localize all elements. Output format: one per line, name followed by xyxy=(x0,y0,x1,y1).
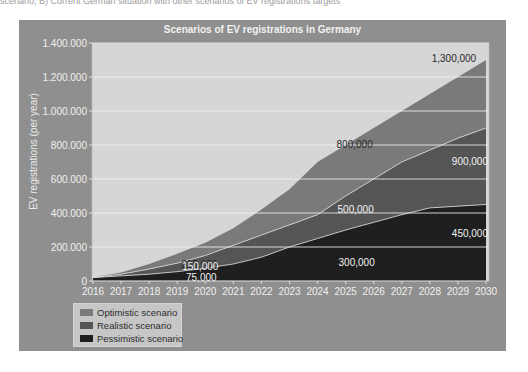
data-label: 75,000 xyxy=(186,272,217,283)
x-tick-label: 2016 xyxy=(82,286,105,297)
legend-item-pessimistic: Pessimistic scenario xyxy=(80,333,183,344)
x-tick-label: 2030 xyxy=(475,286,498,297)
legend-label: Realistic scenario xyxy=(97,320,171,331)
x-tick-label: 2020 xyxy=(194,286,217,297)
x-tick-label: 2021 xyxy=(222,286,245,297)
x-tick-label: 2027 xyxy=(391,286,414,297)
data-label: 450,000 xyxy=(452,228,489,239)
legend-item-realistic: Realistic scenario xyxy=(80,320,171,331)
y-tick-label: 800.000 xyxy=(51,140,88,151)
legend-label: Pessimistic scenario xyxy=(97,333,183,344)
legend-swatch-pessimistic xyxy=(80,335,93,342)
y-tick-label: 200.000 xyxy=(51,242,88,253)
x-tick-label: 2018 xyxy=(138,286,161,297)
chart-legend: Optimistic scenario Realistic scenario P… xyxy=(73,303,182,347)
y-tick-label: 600.000 xyxy=(51,174,88,185)
legend-swatch-realistic xyxy=(80,322,93,329)
data-label: 500,000 xyxy=(338,204,375,215)
x-tick-label: 2024 xyxy=(306,286,329,297)
x-tick-label: 2025 xyxy=(335,286,358,297)
x-tick-label: 2022 xyxy=(250,286,273,297)
chart-plot: 0200.000400.000600.000800.0001.000.0001.… xyxy=(19,20,506,351)
data-label: 300,000 xyxy=(339,257,376,268)
legend-item-optimistic: Optimistic scenario xyxy=(80,307,177,318)
x-tick-label: 2028 xyxy=(419,286,442,297)
data-label: 1,300,000 xyxy=(432,53,477,64)
y-tick-label: 1.000.000 xyxy=(43,106,88,117)
x-tick-label: 2026 xyxy=(363,286,386,297)
x-tick-label: 2017 xyxy=(110,286,133,297)
data-label: 800,000 xyxy=(337,139,374,150)
y-tick-label: 400.000 xyxy=(51,208,88,219)
chart-frame: Scenarios of EV registrations in Germany… xyxy=(19,20,506,351)
legend-label: Optimistic scenario xyxy=(97,307,177,318)
x-tick-label: 2023 xyxy=(278,286,301,297)
y-tick-label: 1.400.000 xyxy=(43,38,88,49)
x-tick-label: 2019 xyxy=(166,286,189,297)
data-label: 150,000 xyxy=(182,261,219,272)
y-tick-label: 0 xyxy=(81,276,87,287)
top-caption: scenario; B) Current German situation wi… xyxy=(0,0,340,6)
x-tick-label: 2029 xyxy=(447,286,470,297)
data-label: 900,000 xyxy=(452,156,489,167)
legend-swatch-optimistic xyxy=(80,309,93,316)
y-tick-label: 1.200.000 xyxy=(43,72,88,83)
